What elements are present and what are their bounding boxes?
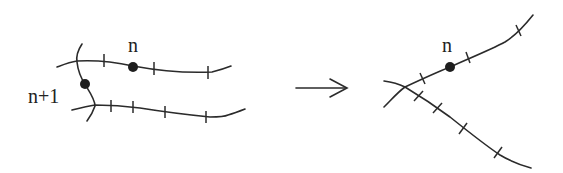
label-n-left: n bbox=[128, 34, 138, 56]
point-n-dot-right bbox=[445, 62, 455, 72]
lower-branch bbox=[384, 81, 531, 168]
label-n-plus-1: n+1 bbox=[28, 85, 59, 107]
upper-branch bbox=[384, 15, 533, 107]
left-figure: n n+1 bbox=[28, 34, 245, 123]
lower-strand bbox=[72, 105, 245, 117]
upper-strand-ticks bbox=[104, 54, 208, 79]
upper-strand bbox=[57, 61, 231, 73]
upper-branch-ticks bbox=[420, 25, 521, 84]
right-arrow-icon bbox=[296, 79, 347, 97]
diagram-canvas: n n+1 n bbox=[0, 0, 563, 173]
right-figure: n bbox=[384, 15, 533, 168]
label-n-right: n bbox=[442, 34, 452, 56]
point-n-dot bbox=[128, 62, 138, 72]
point-n-plus-1-dot bbox=[80, 79, 90, 89]
diagram-svg: n n+1 n bbox=[0, 0, 563, 173]
